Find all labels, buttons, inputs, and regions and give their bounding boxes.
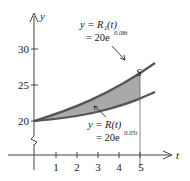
r-label-line1: y = R(t) <box>87 119 122 131</box>
r-label-line2: = 20e <box>96 132 120 143</box>
x-tick-4: 4 <box>116 161 122 173</box>
x-tick-3: 3 <box>95 161 101 173</box>
y-tick-20: 20 <box>18 115 30 127</box>
chart: 1 2 3 4 5 20 25 30 y t S y = R₁(t) = 20e… <box>0 0 190 181</box>
axis-break-icon <box>31 136 37 145</box>
x-tick-1: 1 <box>53 161 59 173</box>
r1-label-line1: y = R₁(t) <box>79 19 117 31</box>
y-tick-30: 30 <box>18 43 30 55</box>
region-label: S <box>136 66 142 78</box>
x-axis-label: t <box>176 149 180 161</box>
x-tick-5: 5 <box>138 161 144 173</box>
r1-label-line2: = 20e <box>86 32 110 43</box>
r-exponent: 0.05t <box>124 129 137 136</box>
x-tick-2: 2 <box>74 161 80 173</box>
r1-exponent: 0.08t <box>114 29 127 36</box>
r1-arrow-icon <box>112 46 125 60</box>
y-tick-25: 25 <box>18 79 30 91</box>
y-axis-label: y <box>39 10 45 22</box>
